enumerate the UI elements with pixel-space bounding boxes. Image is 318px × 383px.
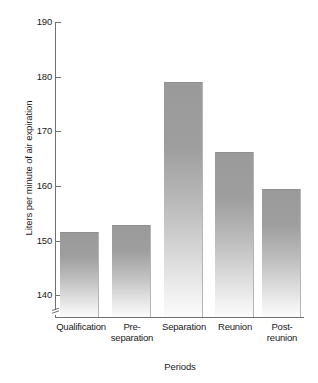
x-tick-line: Post- — [252, 321, 312, 332]
plot-area — [56, 22, 304, 317]
x-tick-line: separation — [100, 332, 164, 343]
y-tick-label: 190 — [26, 17, 52, 27]
y-tick-label: 180 — [26, 72, 52, 82]
bar-separation[interactable] — [164, 82, 203, 317]
bar-chart-figure: Liters per minute of air expiration 190 … — [0, 0, 318, 383]
x-axis-title: Periods — [56, 361, 304, 372]
bar-slot — [112, 22, 151, 317]
bar-reunion[interactable] — [215, 152, 254, 317]
bar-pre-separation[interactable] — [112, 225, 151, 317]
bar-post-reunion[interactable] — [262, 189, 301, 317]
y-tick-label: 170 — [26, 126, 52, 136]
y-tick-label: 140 — [26, 290, 52, 300]
bar-slot — [60, 22, 99, 317]
bar-slot — [164, 22, 203, 317]
x-tick-line: reunion — [252, 332, 312, 343]
bar-qualification[interactable] — [60, 232, 99, 317]
x-tick-label-post-reunion: Post- reunion — [252, 321, 312, 343]
bar-slot — [215, 22, 254, 317]
x-axis-line — [55, 317, 304, 318]
x-axis-tick-labels: Qualification Pre- separation Separation… — [56, 321, 304, 355]
bar-slot — [262, 22, 301, 317]
y-tick-label: 150 — [26, 236, 52, 246]
y-tick-label: 160 — [26, 181, 52, 191]
